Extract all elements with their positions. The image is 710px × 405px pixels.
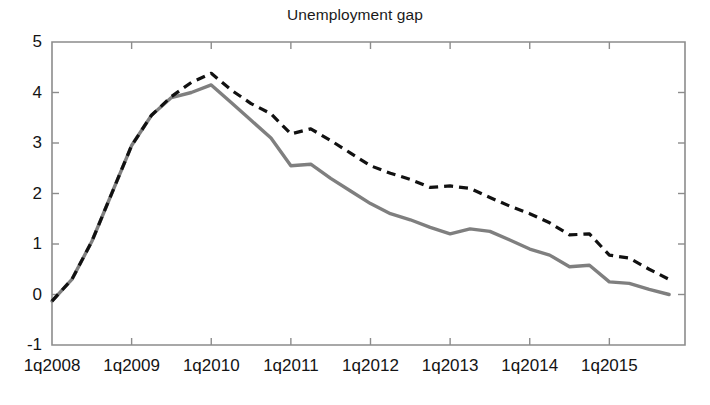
x-tick-label: 1q2015 [581, 356, 638, 375]
x-tick-label: 1q2011 [263, 356, 318, 375]
y-tick-label: 2 [33, 184, 42, 203]
x-tick-label: 1q2008 [24, 356, 81, 375]
y-axis-labels: 543210-1 [27, 32, 42, 354]
y-tick-label: 0 [33, 285, 42, 304]
data-series [52, 73, 669, 301]
x-tick-label: 1q2012 [342, 356, 399, 375]
y-tick-label: 3 [33, 133, 42, 152]
axes-box [52, 42, 685, 345]
x-tick-label: 1q2009 [103, 356, 160, 375]
series-line-solid-gray-series [52, 85, 669, 301]
y-tick-label: -1 [27, 335, 42, 354]
y-tick-label: 1 [33, 234, 42, 253]
y-tick-label: 4 [33, 83, 42, 102]
x-tick-label: 1q2010 [183, 356, 240, 375]
tick-marks [52, 42, 685, 345]
line-chart-plot: 543210-1 1q20081q20091q20101q20111q20121… [0, 0, 710, 405]
axes [52, 42, 685, 345]
x-tick-label: 1q2014 [501, 356, 558, 375]
x-axis-labels: 1q20081q20091q20101q20111q20121q20131q20… [24, 356, 638, 375]
chart-figure: Unemployment gap 543210-1 1q20081q20091q… [0, 0, 710, 405]
x-tick-label: 1q2013 [422, 356, 479, 375]
y-tick-label: 5 [33, 32, 42, 51]
